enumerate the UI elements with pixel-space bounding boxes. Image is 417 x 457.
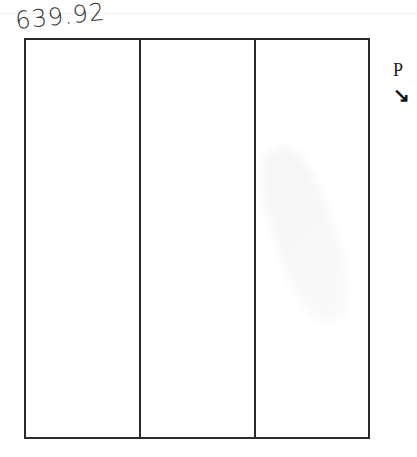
column-divider-2 [254, 38, 256, 439]
column-divider-1 [139, 38, 141, 439]
handwritten-amount: 639.92 [14, 0, 106, 35]
three-column-box [24, 38, 370, 439]
check-mark-icon: ↘ [393, 83, 410, 107]
margin-label: P [393, 60, 403, 81]
